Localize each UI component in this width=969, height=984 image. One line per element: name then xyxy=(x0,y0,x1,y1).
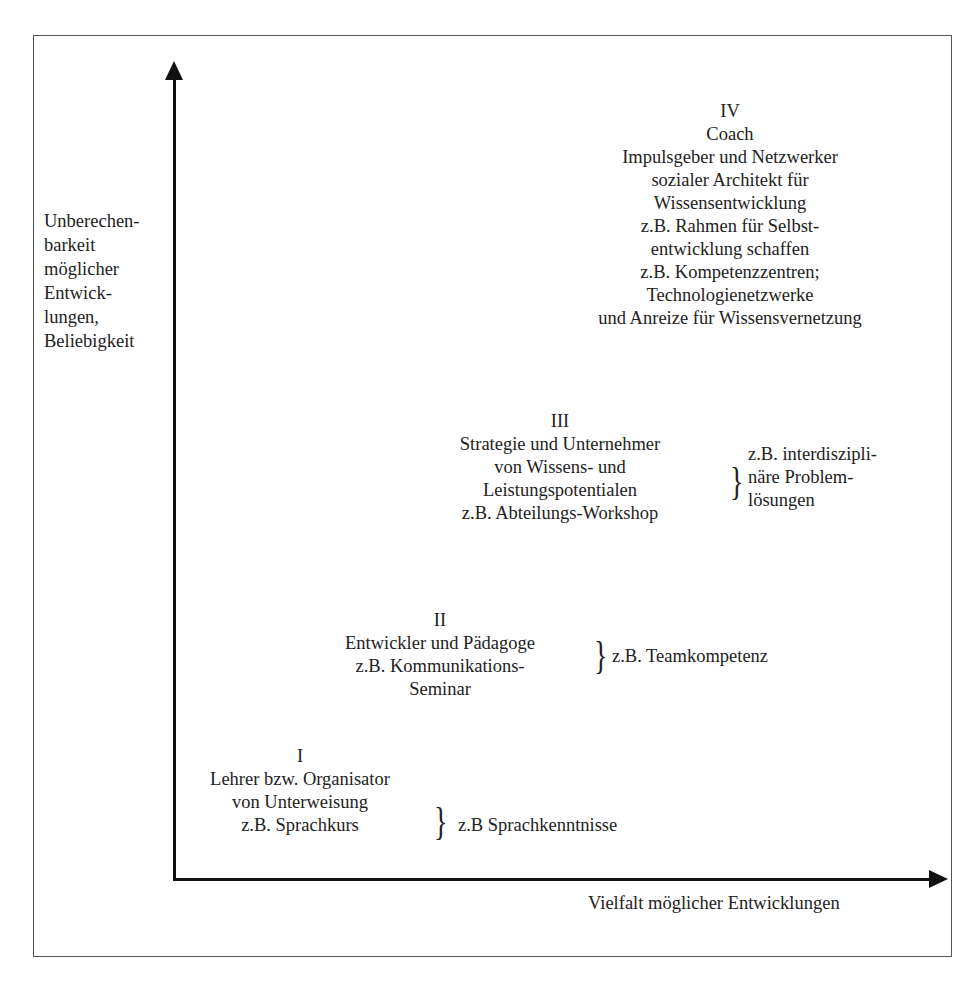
x-axis-arrowhead-icon xyxy=(929,870,948,888)
stage-2-block: II Entwickler und Pädagoge z.B. Kommunik… xyxy=(300,609,580,701)
stage-1-example: z.B Sprachkenntnisse xyxy=(458,814,617,837)
stage-1-numeral: I xyxy=(180,745,420,768)
y-axis-line xyxy=(173,72,176,881)
stage-2-brace-icon: } xyxy=(594,636,607,676)
stage-1-block: I Lehrer bzw. Organisator von Unterweisu… xyxy=(180,745,420,837)
y-axis-label: Unberechen- barkeit möglicher Entwick- l… xyxy=(44,209,140,353)
y-axis-arrowhead-icon xyxy=(165,61,183,80)
stage-3-example: z.B. interdiszipli- näre Problem- lösung… xyxy=(748,443,877,512)
stage-4-block: IV Coach Impulsgeber und Netzwerker sozi… xyxy=(505,100,955,330)
stage-4-numeral: IV xyxy=(505,100,955,123)
stage-1-brace-icon: } xyxy=(434,802,447,842)
stage-2-example: z.B. Teamkompetenz xyxy=(612,645,768,668)
stage-3-brace-icon: } xyxy=(730,462,743,502)
stage-3-block: III Strategie und Unternehmer von Wissen… xyxy=(410,410,710,525)
x-axis-label: Vielfalt möglicher Entwicklungen xyxy=(588,892,840,915)
stage-3-numeral: III xyxy=(410,410,710,433)
stage-2-numeral: II xyxy=(300,609,580,632)
x-axis-line xyxy=(173,878,933,881)
